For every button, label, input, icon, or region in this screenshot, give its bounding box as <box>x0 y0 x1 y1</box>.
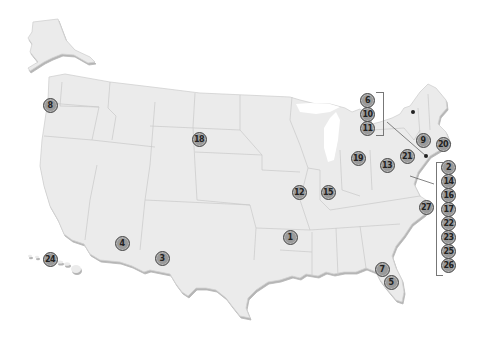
location-marker-16[interactable]: 16 <box>441 188 456 203</box>
location-marker-22[interactable]: 22 <box>441 216 456 231</box>
location-marker-25[interactable]: 25 <box>441 244 456 259</box>
location-marker-23[interactable]: 23 <box>441 230 456 245</box>
location-marker-3[interactable]: 3 <box>155 251 170 266</box>
location-marker-11[interactable]: 11 <box>360 121 375 136</box>
location-marker-26[interactable]: 26 <box>441 258 456 273</box>
ne-stack-bracket <box>376 92 384 136</box>
location-marker-13[interactable]: 13 <box>380 158 395 173</box>
location-marker-24[interactable]: 24 <box>43 252 58 267</box>
alaska-shape <box>28 19 95 71</box>
location-dot <box>411 110 415 114</box>
location-marker-9[interactable]: 9 <box>416 133 431 148</box>
location-marker-19[interactable]: 19 <box>351 151 366 166</box>
location-marker-10[interactable]: 10 <box>360 107 375 122</box>
location-marker-2[interactable]: 2 <box>441 160 456 175</box>
location-marker-4[interactable]: 4 <box>115 236 130 251</box>
location-marker-5[interactable]: 5 <box>384 275 399 290</box>
location-marker-20[interactable]: 20 <box>436 137 451 152</box>
location-marker-15[interactable]: 15 <box>321 185 336 200</box>
location-marker-27[interactable]: 27 <box>419 200 434 215</box>
location-marker-21[interactable]: 21 <box>400 149 415 164</box>
location-marker-7[interactable]: 7 <box>375 262 390 277</box>
location-marker-6[interactable]: 6 <box>360 93 375 108</box>
location-marker-1[interactable]: 1 <box>283 230 298 245</box>
location-marker-14[interactable]: 14 <box>441 174 456 189</box>
location-marker-12[interactable]: 12 <box>292 185 307 200</box>
location-marker-18[interactable]: 18 <box>192 132 207 147</box>
us-map <box>0 0 493 338</box>
location-marker-8[interactable]: 8 <box>43 98 58 113</box>
location-marker-17[interactable]: 17 <box>441 202 456 217</box>
location-dot <box>424 154 428 158</box>
